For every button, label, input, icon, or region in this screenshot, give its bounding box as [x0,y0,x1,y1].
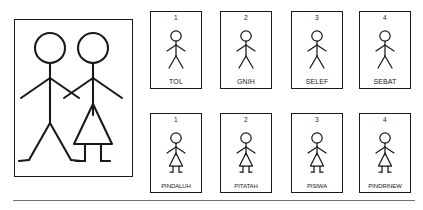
card-label: PITATAH [234,183,257,189]
reference-couple-drawing [15,20,131,175]
female-right-arm-line [93,78,122,98]
card-row-male: 1 TOL 2 [150,11,416,89]
card-tol[interactable]: 1 TOL [150,11,202,89]
male-figure-icon [360,21,410,78]
figure-root: 1 TOL 2 [0,0,423,210]
card-sebat[interactable]: 4 SEBAT [359,11,411,89]
card-pisiwa[interactable]: 3 [291,113,343,193]
male-head-shape [35,33,65,63]
male-left-arm-line [21,78,50,98]
card-label: SEBAT [374,78,397,85]
male-figure-icon [151,21,201,78]
reference-couple-panel [14,19,133,177]
card-label: PINDRINEW [368,183,401,189]
male-right-leg-line [50,123,71,160]
male-right-arm-line [50,78,79,98]
female-head-shape [78,33,108,63]
card-label: PINDALUH [161,183,191,189]
card-row-female: 1 [150,113,416,191]
card-label: GNIH [237,78,255,85]
male-figure-icon [292,21,342,78]
card-pitatah[interactable]: 2 [220,113,272,193]
card-pindaluh[interactable]: 1 [150,113,202,193]
card-pindrinew[interactable]: 4 [359,113,411,193]
card-grid: 1 TOL 2 [150,11,416,189]
male-figure-icon [221,21,271,78]
card-selef[interactable]: 3 SELEF [291,11,343,89]
bottom-divider-rule [13,200,415,201]
card-label: PISIWA [307,183,327,189]
female-figure-icon [151,123,201,183]
male-left-leg-line [29,123,50,160]
card-label: TOL [169,78,183,85]
female-figure-icon [292,123,342,183]
card-gnih[interactable]: 2 GNIH [220,11,272,89]
female-left-arm-line [64,78,93,98]
card-label: SELEF [306,78,329,85]
female-figure-icon [221,123,271,183]
male-left-foot-line [19,160,29,161]
female-figure-icon [360,123,410,183]
